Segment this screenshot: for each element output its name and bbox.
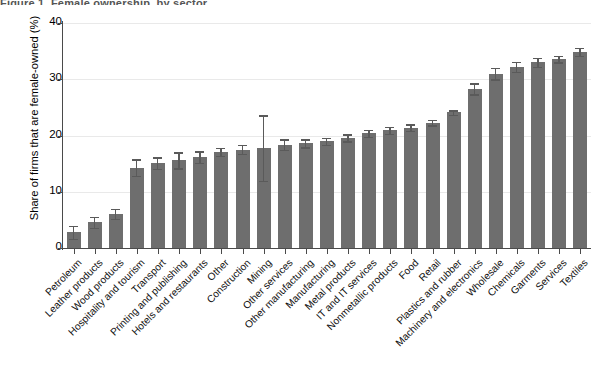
bar-group[interactable] (299, 23, 313, 248)
x-axis-tick (559, 249, 560, 254)
x-axis-tick (306, 249, 307, 254)
y-axis-tick-label: 10 (10, 184, 62, 196)
x-axis-tick (264, 249, 265, 254)
x-axis-tick (348, 249, 349, 254)
error-cap-lower (343, 141, 352, 142)
error-cap-lower (470, 94, 479, 95)
error-cap-upper (449, 110, 458, 111)
bar-group[interactable] (468, 23, 482, 248)
error-cap-lower (90, 228, 99, 229)
x-axis-tick (285, 249, 286, 254)
error-bar (516, 62, 517, 72)
error-cap-lower (449, 115, 458, 116)
error-bar (495, 68, 496, 79)
error-cap-upper (470, 83, 479, 84)
y-axis-tick-label: 40 (10, 15, 62, 27)
y-axis-tick (58, 248, 63, 249)
y-axis-tick-label: 30 (10, 71, 62, 83)
bar-group[interactable] (573, 23, 587, 248)
figure-title-clipped: Figure 1. Female ownership, by sector (0, 0, 596, 5)
error-cap-lower (174, 168, 183, 169)
error-cap-lower (69, 239, 78, 240)
error-cap-lower (385, 134, 394, 135)
error-cap-upper (111, 209, 120, 210)
error-cap-upper (512, 62, 521, 63)
error-cap-lower (153, 169, 162, 170)
error-cap-lower (554, 62, 563, 63)
bar-group[interactable] (552, 23, 566, 248)
bar-group[interactable] (109, 23, 123, 248)
bar[interactable] (573, 52, 587, 248)
error-cap-lower (364, 137, 373, 138)
bar-group[interactable] (67, 23, 81, 248)
error-bar (73, 226, 74, 240)
x-axis-tick (179, 249, 180, 254)
bar[interactable] (531, 62, 545, 248)
error-cap-lower (533, 67, 542, 68)
y-axis-tick-label: 0 (10, 240, 62, 252)
error-cap-lower (301, 147, 310, 148)
error-cap-upper (90, 217, 99, 218)
bar-group[interactable] (278, 23, 292, 248)
error-bar (199, 151, 200, 162)
error-cap-lower (491, 79, 500, 80)
error-cap-upper (343, 134, 352, 135)
y-axis-ticks: 010203040 (0, 0, 62, 376)
x-axis-tick (369, 249, 370, 254)
error-cap-upper (238, 145, 247, 146)
error-cap-lower (512, 72, 521, 73)
x-axis-tick (200, 249, 201, 254)
error-bar (157, 157, 158, 168)
error-bar (94, 217, 95, 228)
error-bar (136, 159, 137, 176)
x-axis-tick (475, 249, 476, 254)
bar[interactable] (468, 89, 482, 248)
error-cap-lower (259, 181, 268, 182)
x-axis-tick (74, 249, 75, 254)
x-axis-tick (137, 249, 138, 254)
error-cap-upper (216, 148, 225, 149)
error-cap-upper (428, 120, 437, 121)
error-cap-upper (554, 56, 563, 57)
error-cap-upper (301, 139, 310, 140)
x-axis-tick (158, 249, 159, 254)
error-bar (284, 139, 285, 149)
y-axis-tick (58, 136, 63, 137)
error-cap-lower (428, 125, 437, 126)
bar[interactable] (447, 112, 461, 248)
error-cap-lower (132, 176, 141, 177)
y-axis-tick (58, 79, 63, 80)
y-axis-tick (58, 23, 63, 24)
x-axis-tick (327, 249, 328, 254)
error-bar (474, 83, 475, 94)
error-cap-lower (111, 219, 120, 220)
error-cap-upper (533, 58, 542, 59)
x-axis-tick (243, 249, 244, 254)
error-cap-lower (322, 145, 331, 146)
error-bar (263, 115, 264, 180)
error-cap-lower (238, 154, 247, 155)
error-cap-upper (322, 138, 331, 139)
x-axis-tick (390, 249, 391, 254)
bar[interactable] (552, 59, 566, 248)
error-cap-upper (406, 124, 415, 125)
error-cap-upper (69, 226, 78, 227)
x-axis-tick (496, 249, 497, 254)
bar-group[interactable] (88, 23, 102, 248)
error-cap-upper (280, 139, 289, 140)
y-axis-tick-label: 20 (10, 128, 62, 140)
error-cap-upper (491, 68, 500, 69)
error-bar (115, 209, 116, 219)
x-axis-tick (580, 249, 581, 254)
error-cap-upper (174, 152, 183, 153)
x-axis-tick (221, 249, 222, 254)
error-bar (178, 152, 179, 168)
error-cap-upper (195, 151, 204, 152)
x-axis-tick (433, 249, 434, 254)
error-cap-lower (195, 163, 204, 164)
error-cap-upper (364, 130, 373, 131)
error-cap-lower (216, 156, 225, 157)
error-cap-lower (280, 150, 289, 151)
x-axis-tick (95, 249, 96, 254)
error-cap-upper (259, 115, 268, 116)
